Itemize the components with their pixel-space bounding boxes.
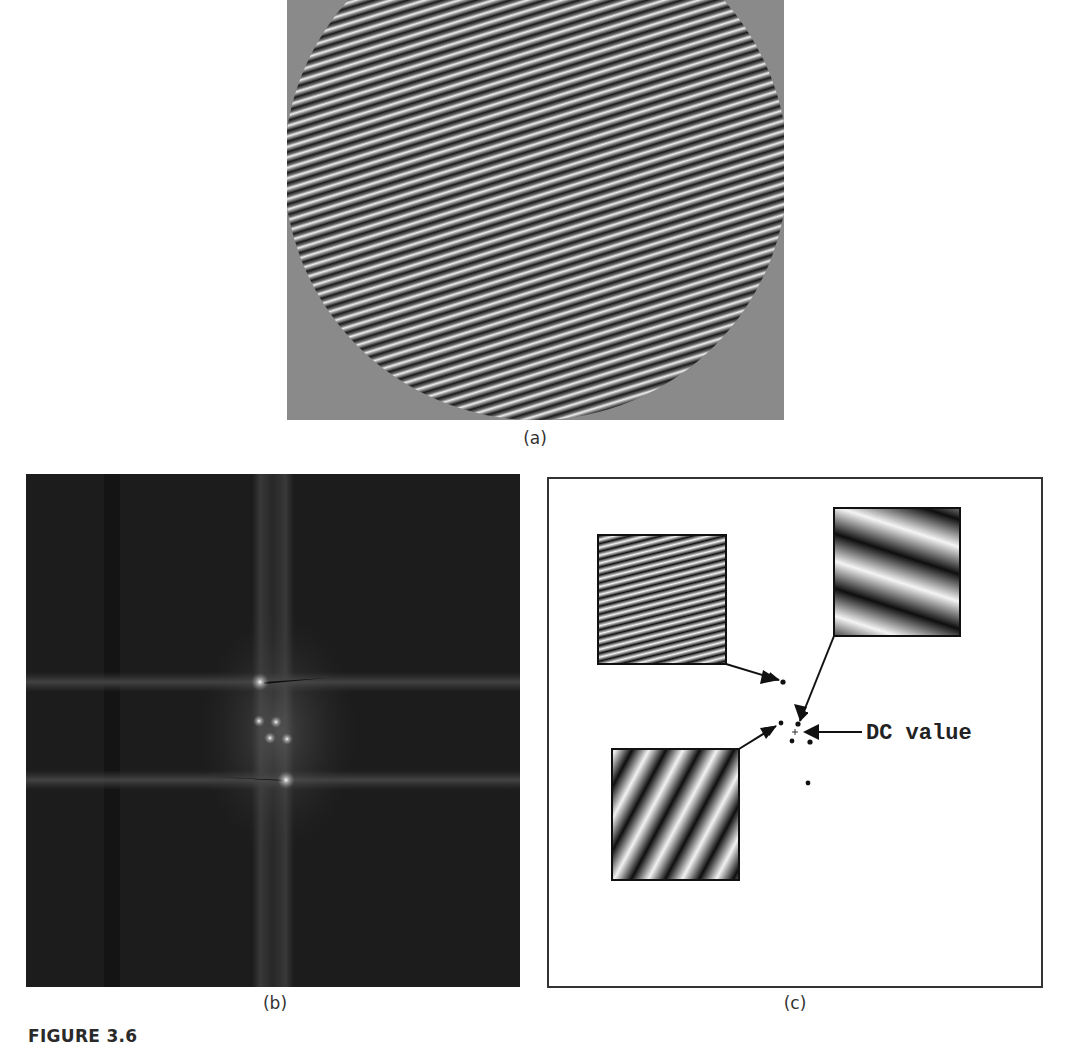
fourier-spectrum-image (26, 474, 520, 987)
panel-b (26, 474, 520, 987)
panel-b-label: (b) (263, 993, 287, 1013)
schematic-diagram: DC value (547, 477, 1043, 988)
panel-a (287, 0, 784, 420)
figure-caption: FIGURE 3.6 (28, 1026, 137, 1046)
panel-a-label: (a) (523, 428, 547, 448)
panel-c-label: (c) (784, 993, 807, 1013)
dc-value-label: DC value (866, 721, 972, 746)
panel-c: DC value (547, 477, 1043, 988)
grating-circle-image (287, 0, 784, 420)
